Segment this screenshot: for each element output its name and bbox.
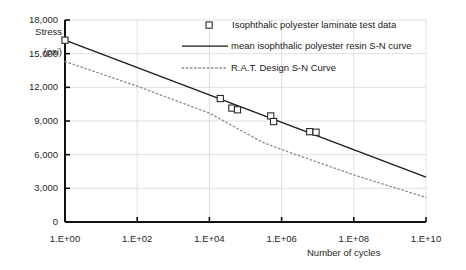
x-axis-tick-label: 1.E+04 bbox=[181, 234, 237, 244]
y-axis-tick-label: 3,000 bbox=[0, 183, 58, 193]
series-markers bbox=[62, 37, 319, 135]
y-axis-tick-label: 0 bbox=[0, 217, 58, 227]
legend-item-label: R.A.T. Design S-N Curve bbox=[231, 62, 336, 73]
y-axis-tick-label: 12,000 bbox=[0, 82, 58, 92]
x-axis-tick-label: 1.E+02 bbox=[109, 234, 165, 244]
y-axis-tick-label: 6,000 bbox=[0, 150, 58, 160]
x-axis-tick-label: 1.E+06 bbox=[254, 234, 310, 244]
legend-item-label: Isophthalic polyester laminate test data bbox=[232, 19, 396, 30]
chart-container: 03,0006,0009,00012,00015,00018,000 1.E+0… bbox=[0, 0, 466, 270]
y-axis-tick-label: 18,000 bbox=[0, 15, 58, 25]
x-axis-tick-label: 1.E+10 bbox=[398, 234, 454, 244]
legend-item-label: mean isophthalic polyester resin S-N cur… bbox=[231, 40, 412, 51]
x-axis-tick-label: 1.E+08 bbox=[326, 234, 382, 244]
legend-glyphs bbox=[182, 22, 228, 68]
y-axis-title-line1: Stress bbox=[6, 27, 62, 37]
x-axis-title: Number of cycles bbox=[307, 248, 380, 258]
x-axis-tick-label: 1.E+00 bbox=[37, 234, 93, 244]
y-axis-tick-label: 9,000 bbox=[0, 116, 58, 126]
y-axis-title-line2: (psi) bbox=[6, 47, 62, 57]
